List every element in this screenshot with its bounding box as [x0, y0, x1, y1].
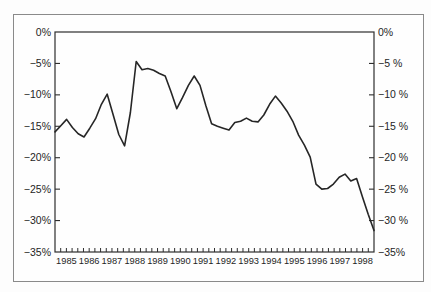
y-axis-label-left: 0% [36, 26, 51, 38]
x-axis-year-label: 1985 [56, 256, 77, 266]
x-axis-year-label: 1993 [238, 256, 259, 266]
x-axis-year-label: 1998 [352, 256, 373, 266]
y-axis-label-left: −10% [24, 88, 51, 100]
y-axis-label-left: −15% [24, 120, 51, 132]
x-axis-year-label: 1990 [170, 256, 191, 266]
x-axis-year-label: 1994 [261, 256, 282, 266]
x-axis-year-label: 1992 [216, 256, 237, 266]
plot-frame [55, 32, 374, 252]
y-axis-label-left: −20% [24, 151, 51, 163]
y-axis-label-right: −25 % [378, 183, 408, 195]
y-axis-label-left: −30% [24, 214, 51, 226]
line-chart: 0%0%−5%−5 %−10%−10 %−15%−15 %−20%−20 %−2… [0, 0, 431, 292]
y-axis-label-right: 0% [378, 26, 393, 38]
x-axis-year-label: 1991 [193, 256, 214, 266]
x-axis-year-label: 1987 [102, 256, 123, 266]
x-axis-year-label: 1997 [329, 256, 350, 266]
y-axis-label-right: −15 % [378, 120, 408, 132]
y-axis-label-left: −25% [24, 183, 51, 195]
x-axis-year-label: 1996 [307, 256, 328, 266]
y-axis-label-right: −5 % [378, 57, 402, 69]
x-axis-year-label: 1986 [79, 256, 100, 266]
data-line [55, 62, 374, 231]
y-axis-label-right: −10 % [378, 88, 408, 100]
y-axis-label-right: −35% [378, 246, 405, 258]
y-axis-label-left: −35% [24, 246, 51, 258]
y-axis-label-right: −30 % [378, 214, 408, 226]
y-axis-label-right: −20 % [378, 151, 408, 163]
x-axis-year-label: 1989 [147, 256, 168, 266]
x-axis-year-label: 1995 [284, 256, 305, 266]
x-axis-year-label: 1988 [124, 256, 145, 266]
y-axis-label-left: −5% [30, 57, 51, 69]
